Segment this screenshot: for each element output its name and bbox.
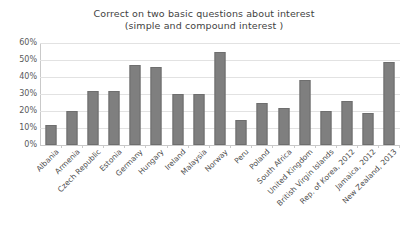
bar-slot bbox=[104, 43, 125, 145]
bar-slot bbox=[379, 43, 400, 145]
bar[interactable] bbox=[299, 80, 310, 145]
gridline-0 bbox=[40, 145, 400, 146]
bar-chart-figure: Correct on two basic questions about int… bbox=[0, 0, 408, 230]
x-axis-category-labels: AlbaniaArmeniaCzech RepublicEstoniaGerma… bbox=[40, 148, 408, 230]
plot-area bbox=[40, 43, 400, 145]
y-axis-tick-labels: 60%50%40%30%20%10%0% bbox=[0, 43, 37, 145]
y-tick-label: 10% bbox=[3, 124, 37, 132]
bar-slot bbox=[294, 43, 315, 145]
bar-slot bbox=[252, 43, 273, 145]
bar-slot bbox=[82, 43, 103, 145]
bar-slot bbox=[231, 43, 252, 145]
y-tick-label: 20% bbox=[3, 107, 37, 115]
y-tick-label: 60% bbox=[3, 39, 37, 47]
bar-slot bbox=[61, 43, 82, 145]
bar[interactable] bbox=[236, 120, 247, 146]
bar[interactable] bbox=[257, 103, 268, 146]
bar-slot bbox=[125, 43, 146, 145]
y-tick-label: 50% bbox=[3, 56, 37, 64]
bar[interactable] bbox=[45, 125, 56, 145]
bars-layer bbox=[40, 43, 400, 145]
bar-slot bbox=[209, 43, 230, 145]
bar[interactable] bbox=[130, 65, 141, 145]
bar-slot bbox=[358, 43, 379, 145]
bar-slot bbox=[315, 43, 336, 145]
bar[interactable] bbox=[66, 111, 77, 145]
bar[interactable] bbox=[342, 101, 353, 145]
bar[interactable] bbox=[384, 62, 395, 145]
bar[interactable] bbox=[87, 91, 98, 145]
chart-title-line-1: Correct on two basic questions about int… bbox=[94, 8, 315, 19]
bar-slot bbox=[40, 43, 61, 145]
bar-slot bbox=[336, 43, 357, 145]
bar-slot bbox=[146, 43, 167, 145]
bar-slot bbox=[167, 43, 188, 145]
bar[interactable] bbox=[363, 113, 374, 145]
bar-slot bbox=[188, 43, 209, 145]
bar[interactable] bbox=[278, 108, 289, 145]
y-tick-label: 30% bbox=[3, 90, 37, 98]
bar[interactable] bbox=[320, 111, 331, 145]
y-tick-label: 0% bbox=[3, 141, 37, 149]
chart-title: Correct on two basic questions about int… bbox=[0, 8, 408, 32]
bar[interactable] bbox=[193, 94, 204, 145]
chart-title-line-2: (simple and compound interest ) bbox=[0, 20, 408, 32]
bar-slot bbox=[273, 43, 294, 145]
y-tick-label: 40% bbox=[3, 73, 37, 81]
bar[interactable] bbox=[172, 94, 183, 145]
bar[interactable] bbox=[151, 67, 162, 145]
bar[interactable] bbox=[109, 91, 120, 145]
bar[interactable] bbox=[214, 52, 225, 146]
